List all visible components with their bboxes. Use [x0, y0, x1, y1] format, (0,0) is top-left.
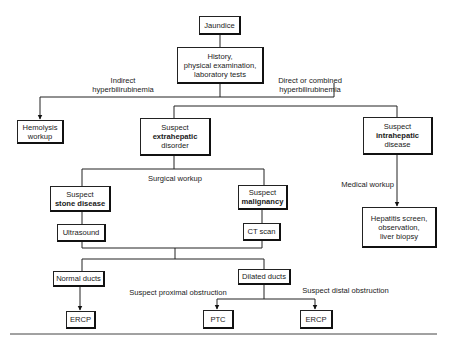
- node-label: Suspect: [384, 122, 411, 131]
- node-hemolysis-workup: Hemolysis workup: [17, 120, 64, 144]
- node-label: Normal ducts: [56, 274, 101, 283]
- edge-label-distal-obstruction: Suspect distal obstruction: [298, 286, 393, 295]
- edge-label-proximal-obstruction: Suspect proximal obstruction: [125, 288, 231, 297]
- node-label: History,: [207, 52, 232, 61]
- node-label: physical examination,: [184, 61, 257, 70]
- node-ct-scan: CT scan: [243, 223, 281, 241]
- node-suspect-malignancy: Suspect malignancy: [238, 185, 288, 210]
- node-label: workup: [28, 132, 52, 141]
- edge-label-medical-workup: Medical workup: [340, 180, 394, 189]
- node-label-bold: intrahepatic: [376, 131, 419, 140]
- node-label: Hepatitis screen,: [371, 214, 428, 223]
- node-hepatitis-screen: Hepatitis screen, observation, liver bio…: [362, 207, 437, 248]
- node-suspect-intrahepatic: Suspect intrahepatic disease: [363, 117, 433, 155]
- node-label: Suspect: [249, 188, 276, 197]
- node-label: observation,: [378, 223, 419, 232]
- edge-label-indirect: Indirect hyperbilirubinemia: [88, 76, 158, 94]
- node-history: History, physical examination, laborator…: [177, 47, 264, 84]
- node-label: liver biopsy: [380, 232, 418, 241]
- node-label: ERCP: [70, 315, 91, 324]
- node-label: disorder: [161, 141, 188, 150]
- edge-label-surgical-workup: Surgical workup: [145, 174, 205, 183]
- node-suspect-extrahepatic: Suspect extrahepatic disorder: [140, 118, 211, 156]
- node-ptc: PTC: [203, 310, 234, 329]
- node-label: Jaundice: [204, 21, 234, 30]
- node-label: Suspect: [66, 190, 93, 199]
- node-label: Dilated ducts: [242, 272, 286, 281]
- node-label: disease: [384, 140, 410, 149]
- node-label: Suspect: [161, 123, 188, 132]
- node-label-bold: stone disease: [55, 199, 105, 208]
- node-ultrasound: Ultrasound: [57, 224, 106, 242]
- node-label-bold: malignancy: [242, 197, 284, 206]
- node-suspect-stone-disease: Suspect stone disease: [50, 186, 111, 212]
- node-label: ERCP: [305, 315, 326, 324]
- node-normal-ducts: Normal ducts: [53, 271, 105, 287]
- edge-label-direct: Direct or combined hyperbilirubinemia: [270, 76, 350, 94]
- node-ercp-left: ERCP: [66, 311, 96, 329]
- node-label: CT scan: [247, 227, 275, 236]
- node-jaundice: Jaundice: [199, 16, 241, 35]
- node-label: Hemolysis: [22, 123, 57, 132]
- node-dilated-ducts: Dilated ducts: [238, 269, 291, 285]
- node-label: laboratory tests: [194, 70, 246, 79]
- node-label: Ultrasound: [63, 228, 100, 237]
- node-ercp-right: ERCP: [300, 310, 333, 329]
- node-label: PTC: [210, 315, 225, 324]
- node-label-bold: extrahepatic: [153, 132, 198, 141]
